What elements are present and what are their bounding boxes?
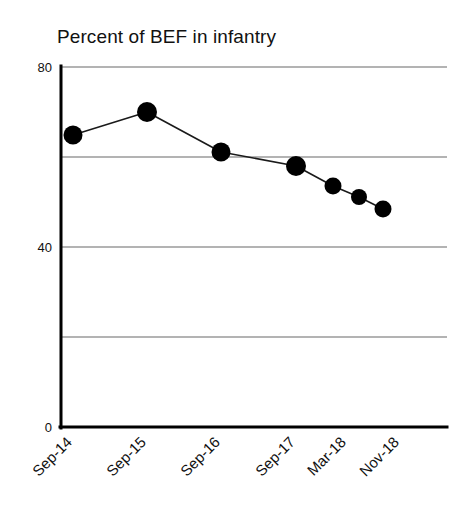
series-markers (64, 102, 392, 218)
data-point-marker (286, 156, 306, 176)
data-point-marker (212, 143, 231, 162)
chart-plot-area: 80 40 0 Sep-14 Sep-15 Sep-16 Sep-17 Mar-… (0, 0, 464, 519)
series-line (73, 112, 383, 209)
y-axis-tick-labels: 80 40 0 (38, 60, 52, 435)
x-tick-label-sep-15: Sep-15 (103, 433, 149, 479)
gridlines (60, 67, 447, 337)
x-tick-label-sep-16: Sep-16 (177, 433, 223, 479)
y-tick-label-40: 40 (38, 240, 52, 255)
data-point-marker (137, 102, 157, 122)
x-tick-label-sep-14: Sep-14 (29, 433, 75, 479)
chart-container: Percent of BEF in infantry 80 40 0 (0, 0, 464, 519)
x-axis-tick-labels: Sep-14 Sep-15 Sep-16 Sep-17 Mar-18 Nov-1… (29, 433, 402, 479)
data-point-marker (375, 201, 392, 218)
y-tick-label-0: 0 (45, 420, 52, 435)
y-tick-label-80: 80 (38, 60, 52, 75)
data-point-marker (351, 189, 367, 205)
x-tick-label-sep-17: Sep-17 (252, 433, 298, 479)
data-point-marker (64, 126, 83, 145)
x-tick-label-mar-18: Mar-18 (304, 433, 350, 479)
data-point-marker (325, 178, 342, 195)
x-tick-label-nov-18: Nov-18 (356, 433, 402, 479)
